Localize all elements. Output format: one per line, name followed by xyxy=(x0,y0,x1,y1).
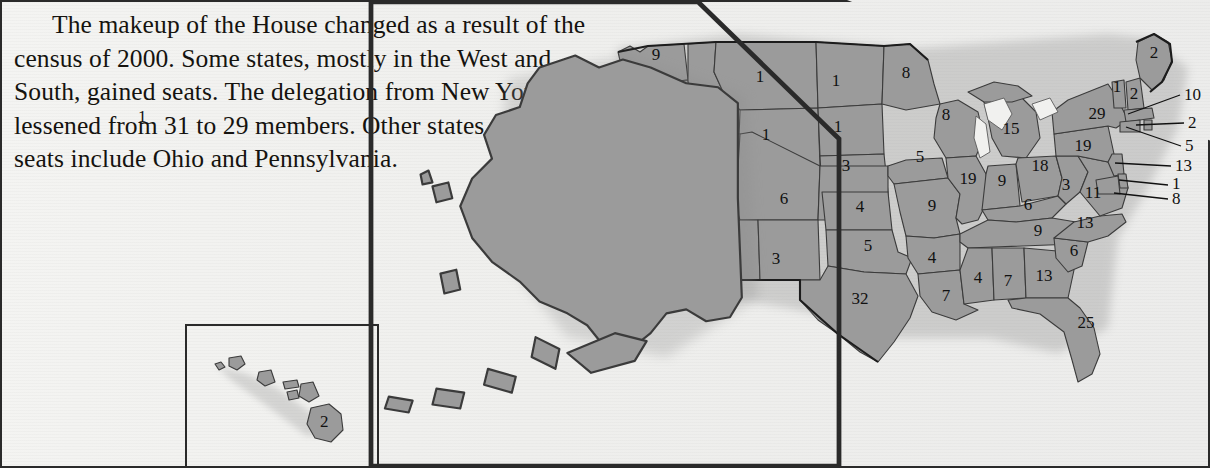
seat-number-nh: 2 xyxy=(1130,84,1139,103)
callout-seat-number-ri: 2 xyxy=(1188,113,1197,132)
alaska-seat-number: 1 xyxy=(138,107,147,127)
alaska-inset: 1 xyxy=(0,0,238,236)
callout-seat-number-ma: 10 xyxy=(1184,85,1201,104)
seat-number-vt: 1 xyxy=(1113,77,1122,96)
alaska-inset-frame xyxy=(0,0,1210,468)
seat-number-me: 2 xyxy=(1150,43,1159,62)
